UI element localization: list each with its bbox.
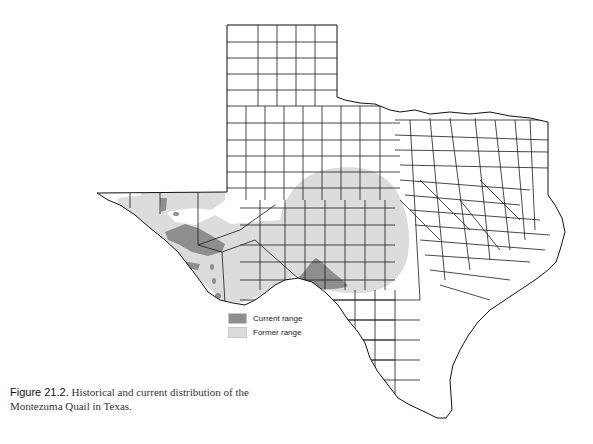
- county-line: [430, 270, 510, 280]
- county-line: [425, 255, 530, 262]
- texas-county-map: [0, 0, 593, 444]
- county-line: [495, 120, 510, 250]
- current-range-area: [210, 264, 214, 270]
- county-line: [400, 180, 530, 190]
- current-range-area: [212, 278, 216, 284]
- county-line: [530, 120, 535, 230]
- map-legend: Current range Former range: [228, 311, 302, 339]
- legend-item-current-range: Current range: [228, 311, 302, 325]
- current-range-area: [160, 198, 167, 212]
- county-line: [515, 120, 525, 240]
- county-line: [420, 180, 470, 230]
- county-line: [400, 165, 548, 168]
- legend-label: Current range: [253, 314, 302, 323]
- legend-label: Former range: [253, 328, 301, 337]
- county-line: [440, 285, 490, 300]
- former-range-swatch: [228, 327, 247, 338]
- county-line: [480, 180, 520, 220]
- current-range-swatch: [228, 313, 247, 324]
- current-range-area: [173, 212, 179, 216]
- figure-label: Figure 21.2.: [10, 386, 69, 398]
- figure-caption: Figure 21.2. Historical and current dist…: [10, 385, 270, 413]
- county-line: [395, 135, 548, 140]
- legend-item-former-range: Former range: [228, 325, 302, 339]
- county-line: [450, 118, 470, 270]
- county-line: [420, 240, 545, 250]
- county-line: [415, 225, 550, 235]
- county-line: [475, 118, 490, 260]
- county-line: [395, 150, 548, 152]
